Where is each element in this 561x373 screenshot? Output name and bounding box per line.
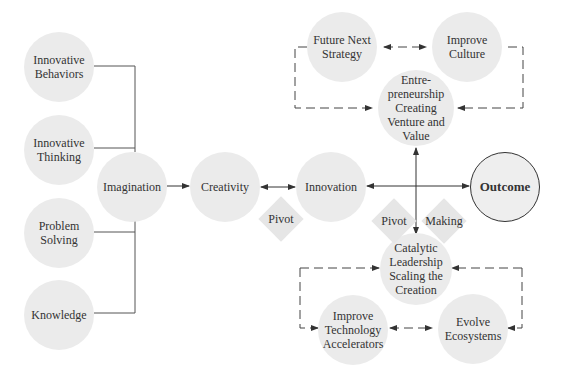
node-evolve-ecosystems: Evolve Ecosystems	[438, 294, 508, 364]
diamond-making-label: Making	[414, 214, 474, 228]
node-outcome: Outcome	[470, 152, 540, 222]
diamond-pivot-left-label: Pivot	[251, 212, 311, 226]
node-innovative-thinking: Innovative Thinking	[24, 115, 94, 185]
node-knowledge: Knowledge	[24, 280, 94, 350]
node-improve-technology-accelerators: Improve Technology Accelerators	[318, 295, 388, 365]
node-creativity: Creativity	[190, 152, 260, 222]
node-entrepreneurship: Entre- preneurship Creating Venture and …	[378, 70, 454, 146]
node-problem-solving: Problem Solving	[24, 198, 94, 268]
node-catalytic-leadership: Catalytic Leadership Scaling the Creatio…	[380, 233, 452, 305]
node-imagination: Imagination	[97, 152, 167, 222]
node-innovative-behaviors: Innovative Behaviors	[24, 32, 94, 102]
node-future-next-strategy: Future Next Strategy	[307, 12, 377, 82]
node-improve-culture: Improve Culture	[432, 12, 502, 82]
diagram-canvas: Innovative Behaviors Innovative Thinking…	[0, 0, 561, 373]
